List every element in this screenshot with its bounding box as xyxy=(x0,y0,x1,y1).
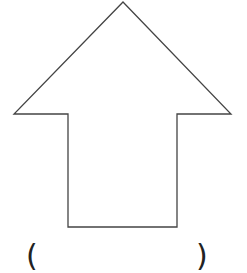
up-arrow-icon xyxy=(14,2,231,227)
open-parenthesis: ( xyxy=(26,241,38,271)
close-parenthesis: ) xyxy=(196,241,208,271)
